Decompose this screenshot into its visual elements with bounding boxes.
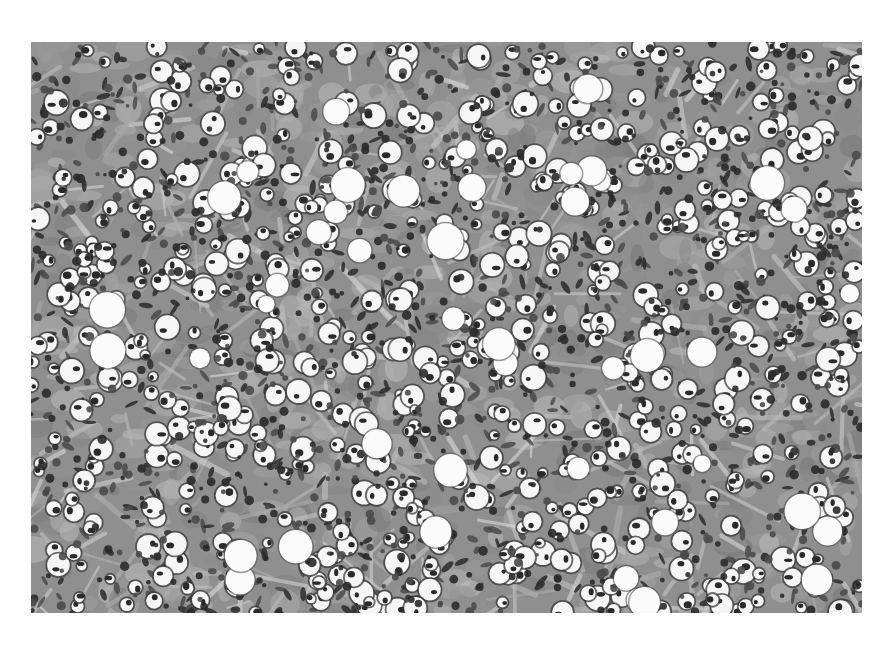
histology-micrograph <box>31 42 862 613</box>
cutoff-caption-text <box>26 0 406 3</box>
tissue-texture <box>31 42 862 613</box>
